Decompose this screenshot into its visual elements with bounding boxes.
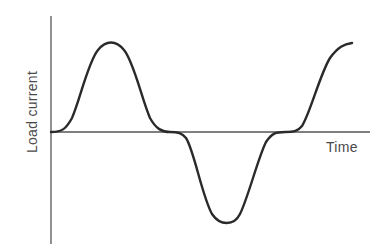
load-current-curve xyxy=(51,43,352,224)
y-axis-label: Load current xyxy=(24,71,40,153)
load-current-waveform-diagram xyxy=(0,0,390,248)
x-axis-label: Time xyxy=(326,139,358,155)
